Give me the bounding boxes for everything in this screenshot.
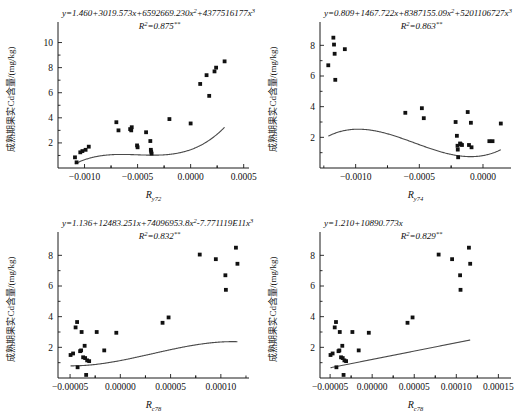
svg-text:8: 8 xyxy=(48,251,53,261)
data-point xyxy=(224,288,228,292)
data-point xyxy=(223,273,227,277)
data-point xyxy=(84,373,88,377)
data-point xyxy=(117,128,121,132)
panel-d-y-axis-title: 成熟期果实Cd含量/(mg/kg) xyxy=(267,256,278,361)
panel-a-data-points xyxy=(73,59,226,164)
panel-d-y-ticks: 2468 xyxy=(310,251,324,363)
panel-b-y-axis-title: 成熟期果实Cd含量/(mg/kg) xyxy=(267,46,278,151)
data-point xyxy=(467,246,471,250)
svg-text:0.0000: 0.0000 xyxy=(178,172,204,182)
data-point xyxy=(334,320,338,324)
svg-text:0.0005: 0.0005 xyxy=(231,172,257,182)
svg-text:y=1.460+3019.573x+6592669.230x: y=1.460+3019.573x+6592669.230x2+43775161… xyxy=(61,7,256,18)
data-point xyxy=(338,330,342,334)
data-point xyxy=(87,145,91,149)
panel-d-fit-curve xyxy=(331,340,471,368)
data-point xyxy=(234,246,238,250)
panel-b-equation: y=0.809+1467.722x+8387155.09x2+520110672… xyxy=(323,7,513,31)
data-point xyxy=(357,349,361,353)
data-point xyxy=(333,326,337,330)
data-point xyxy=(75,160,79,164)
data-point xyxy=(213,70,217,74)
data-point xyxy=(326,63,330,67)
data-point xyxy=(73,155,77,159)
data-point xyxy=(144,130,148,134)
data-point xyxy=(161,321,165,325)
data-point xyxy=(422,116,426,120)
regression-figure: y=1.460+3019.573x+6592669.230x2+43775161… xyxy=(0,0,520,419)
data-point xyxy=(342,373,346,377)
svg-text:4: 4 xyxy=(310,102,315,112)
panel-c-x-ticks: −0.000050.000000.000050.00010 xyxy=(52,374,246,392)
data-point xyxy=(236,262,240,266)
data-point xyxy=(458,273,462,277)
svg-text:0.00005: 0.00005 xyxy=(399,382,430,392)
data-point xyxy=(337,349,341,353)
panel-a-y-ticks: 246810 xyxy=(44,38,63,156)
panel-c: y=1.136+12483.251x+74096953.8x2-7.771119… xyxy=(0,210,258,419)
data-point xyxy=(79,349,83,353)
data-point xyxy=(83,344,87,348)
data-point xyxy=(333,52,337,56)
svg-text:R2=0.829**: R2=0.829** xyxy=(400,230,443,241)
data-point xyxy=(466,110,470,114)
svg-text:8: 8 xyxy=(310,41,315,51)
data-point xyxy=(198,253,202,257)
panel-a-axes xyxy=(58,22,249,168)
svg-text:−0.0010: −0.0010 xyxy=(340,172,372,182)
svg-text:8: 8 xyxy=(48,63,53,73)
svg-text:4: 4 xyxy=(48,312,53,322)
data-point xyxy=(333,78,337,82)
panel-b-fit-curve xyxy=(328,129,501,156)
svg-text:y=0.809+1467.722x+8387155.09x2: y=0.809+1467.722x+8387155.09x2+520110672… xyxy=(323,7,513,18)
panel-d-equation: y=1.210+10890.773xR2=0.829** xyxy=(323,218,443,241)
data-point xyxy=(168,117,172,121)
svg-text:0.00000: 0.00000 xyxy=(357,382,388,392)
panel-b-axes xyxy=(320,22,511,168)
data-point xyxy=(189,122,193,126)
data-point xyxy=(350,330,354,334)
data-point xyxy=(167,316,171,320)
svg-text:6: 6 xyxy=(48,281,53,291)
svg-text:y=1.210+10890.773x: y=1.210+10890.773x xyxy=(323,218,403,228)
data-point xyxy=(454,120,458,124)
svg-text:0.00015: 0.00015 xyxy=(483,382,514,392)
data-point xyxy=(114,120,118,124)
panel-b-plot: y=0.809+1467.722x+8387155.09x2+520110672… xyxy=(262,0,520,209)
svg-text:6: 6 xyxy=(310,281,315,291)
svg-text:0.00010: 0.00010 xyxy=(441,382,472,392)
svg-text:0.0000: 0.0000 xyxy=(470,172,496,182)
panel-b-x-ticks: −0.0010−0.00050.0000 xyxy=(324,164,496,182)
data-point xyxy=(331,352,335,356)
svg-text:6: 6 xyxy=(310,71,315,81)
data-point xyxy=(223,59,227,63)
data-point xyxy=(460,143,464,147)
data-point xyxy=(455,134,459,138)
data-point xyxy=(198,82,202,86)
svg-text:−0.00005: −0.00005 xyxy=(312,382,348,392)
data-point xyxy=(468,262,472,266)
data-point xyxy=(75,320,79,324)
panel-c-plot: y=1.136+12483.251x+74096953.8x2-7.771119… xyxy=(0,210,258,419)
panel-c-y-ticks: 2468 xyxy=(48,251,62,363)
svg-text:10: 10 xyxy=(44,38,54,48)
data-point xyxy=(469,121,473,125)
svg-text:8: 8 xyxy=(310,251,315,261)
panel-a-y-axis-title: 成熟期果实Cd含量/(mg/kg) xyxy=(5,46,16,151)
data-point xyxy=(331,36,335,40)
data-point xyxy=(340,344,344,348)
data-point xyxy=(420,106,424,110)
data-point xyxy=(335,365,339,369)
svg-text:R2=0.832**: R2=0.832** xyxy=(138,230,181,241)
data-point xyxy=(95,330,99,334)
panel-d-plot: y=1.210+10890.773xR2=0.829**2468−0.00005… xyxy=(262,210,520,419)
svg-text:−0.00005: −0.00005 xyxy=(52,382,88,392)
svg-text:4: 4 xyxy=(310,312,315,322)
panel-a: y=1.460+3019.573x+6592669.230x2+43775161… xyxy=(0,0,258,209)
svg-text:0.00005: 0.00005 xyxy=(155,382,186,392)
svg-text:2: 2 xyxy=(48,343,53,353)
data-point xyxy=(136,145,140,149)
panel-c-fit-curve xyxy=(71,342,238,366)
svg-text:0.00000: 0.00000 xyxy=(105,382,136,392)
data-point xyxy=(367,331,371,335)
